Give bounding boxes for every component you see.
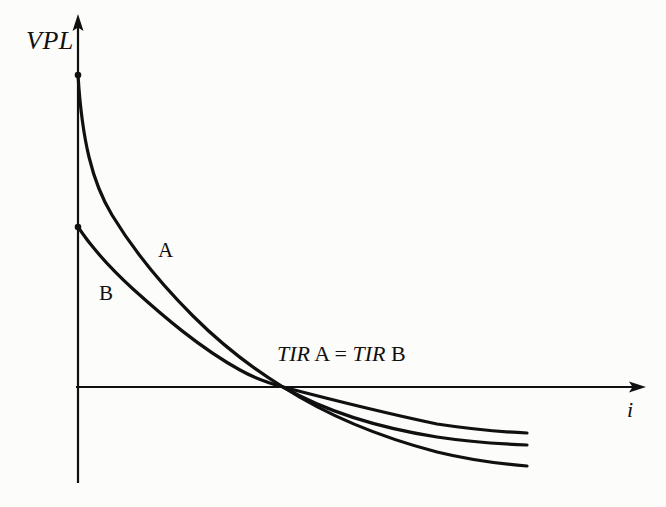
x-axis: [76, 382, 646, 393]
x-axis-label: i: [627, 399, 633, 421]
tir-b-symbol: TIR: [352, 341, 385, 366]
curve-a-label: A: [158, 240, 173, 261]
tir-b-project: B: [385, 341, 405, 366]
curve-a: [75, 72, 527, 466]
tir-equality-annotation: TIR A = TIR B: [277, 343, 406, 365]
curve-b-intercept-marker: [75, 224, 82, 231]
equality-operator: =: [334, 341, 352, 366]
tir-a-symbol: TIR: [277, 341, 310, 366]
curve-b-label: B: [99, 283, 113, 304]
chart-figure: VPL i A B TIR A = TIR B: [0, 0, 666, 507]
y-axis-label: VPL: [26, 28, 74, 54]
curve-b: [75, 224, 527, 433]
chart-plot-area: [0, 0, 666, 507]
curve-a-intercept-marker: [75, 72, 82, 79]
tir-a-project: A: [310, 341, 334, 366]
